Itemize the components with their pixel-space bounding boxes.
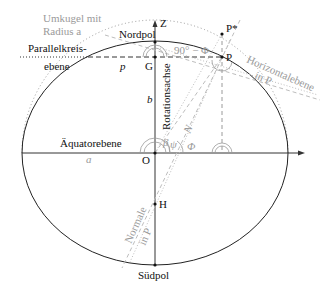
origin-label: O (142, 154, 150, 166)
z-axis-label: Z (160, 17, 167, 29)
horizontal-plane (105, 35, 320, 100)
b-semiaxis-label: b (147, 93, 153, 105)
angle-phi-label: Φ (187, 140, 196, 152)
aequatorebene-label: Äquatorebene (60, 137, 122, 149)
point-nordpol (153, 40, 156, 43)
point-o (153, 151, 156, 154)
p-star-label: P* (226, 22, 238, 34)
suedpol-label: Südpol (138, 269, 169, 281)
p-label: P (226, 51, 232, 63)
angle-90-minus-phi-label: 90° − Φ (174, 44, 209, 56)
point-suedpol (153, 263, 156, 266)
h-label: H (159, 198, 167, 210)
a-semiaxis-label: a (86, 153, 92, 165)
point-g (153, 55, 156, 58)
angle-beta-label: β (162, 136, 169, 148)
parallel-plane-label-2: ebene (44, 60, 70, 72)
rotationsachse-label: Rotationsachse (160, 63, 172, 130)
x-axis-arrow-icon (298, 151, 305, 156)
point-p-star (220, 32, 223, 35)
angle-psi-label: ψ (170, 138, 177, 150)
n-symbol-label: N (180, 123, 195, 136)
g-label: G (145, 60, 153, 72)
p-radius-label: p (119, 60, 126, 72)
umkugel-label-1: Umkugel mit (43, 12, 101, 24)
z-axis-arrow-icon (153, 20, 158, 27)
ellipsoid-diagram: Umkugel mit Radius a Nordpol Z P* P G Pa… (0, 0, 323, 287)
point-p (220, 55, 223, 58)
nordpol-label: Nordpol (119, 28, 156, 40)
parallel-plane-label-1: Parallelkreis- (28, 42, 87, 54)
point-h (153, 202, 156, 205)
umkugel-label-2: Radius a (43, 25, 81, 37)
